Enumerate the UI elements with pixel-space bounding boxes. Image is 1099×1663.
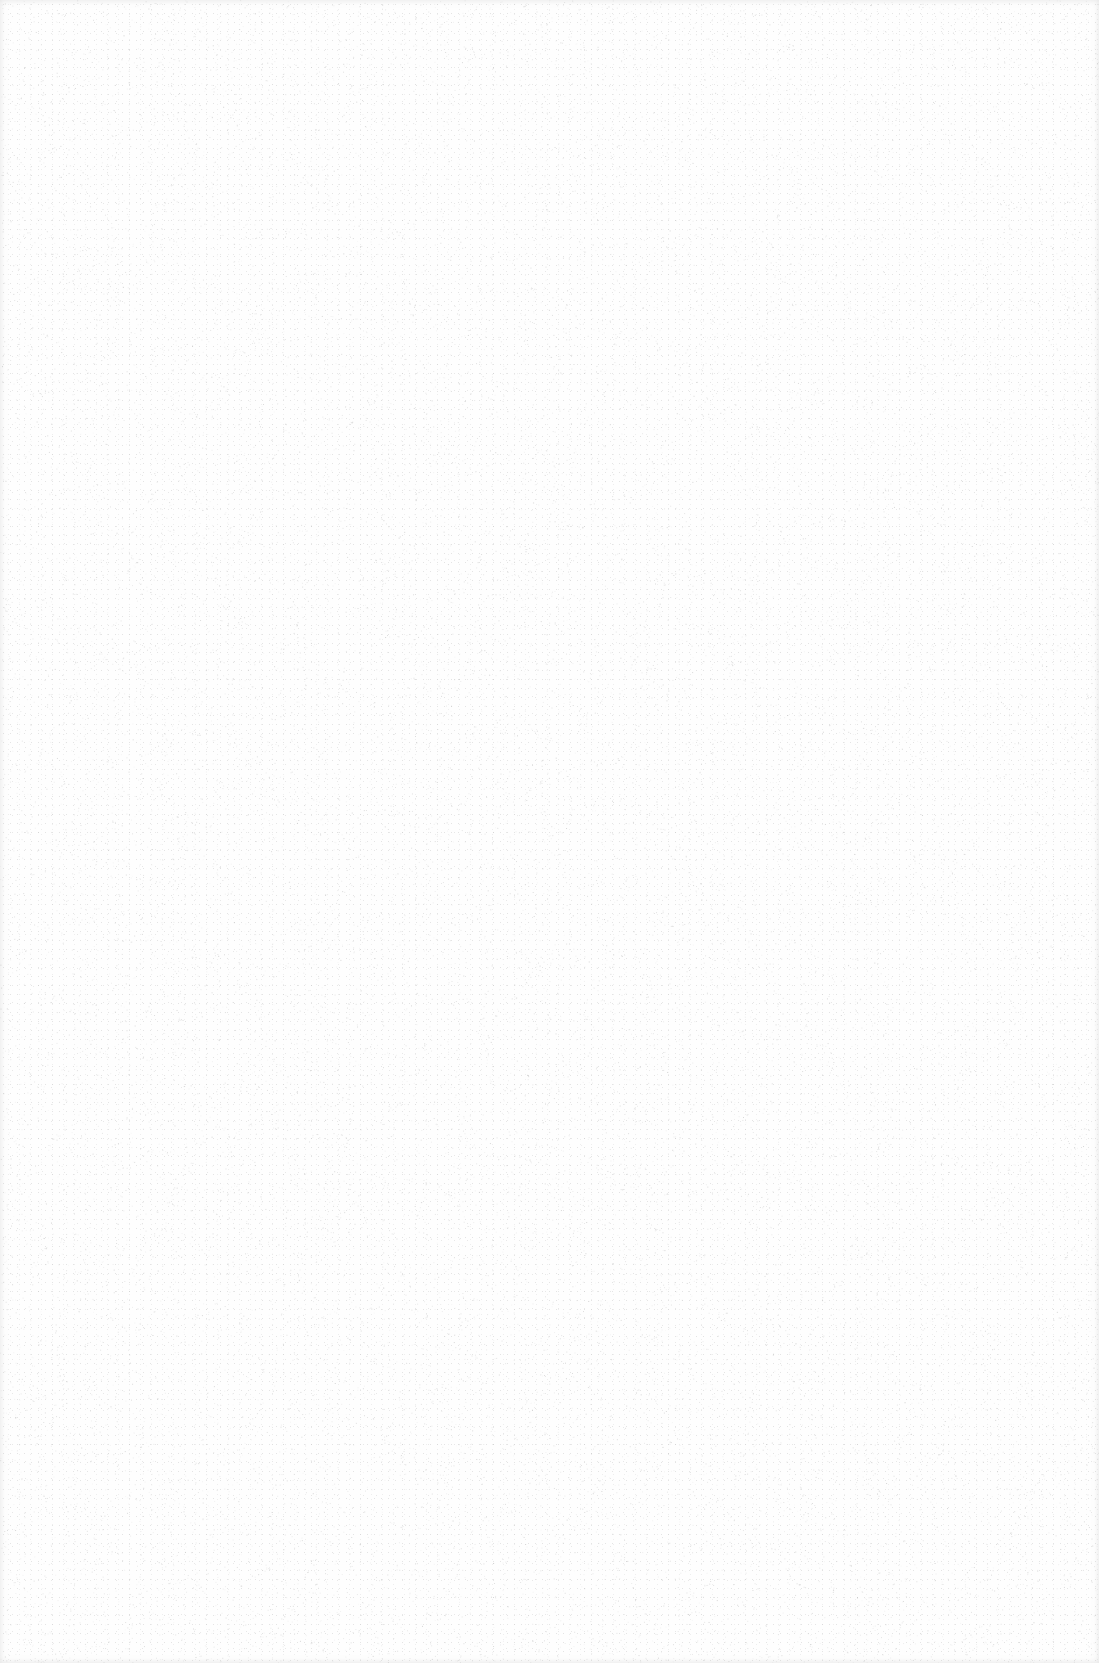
blank-page-surface bbox=[0, 0, 1099, 1663]
